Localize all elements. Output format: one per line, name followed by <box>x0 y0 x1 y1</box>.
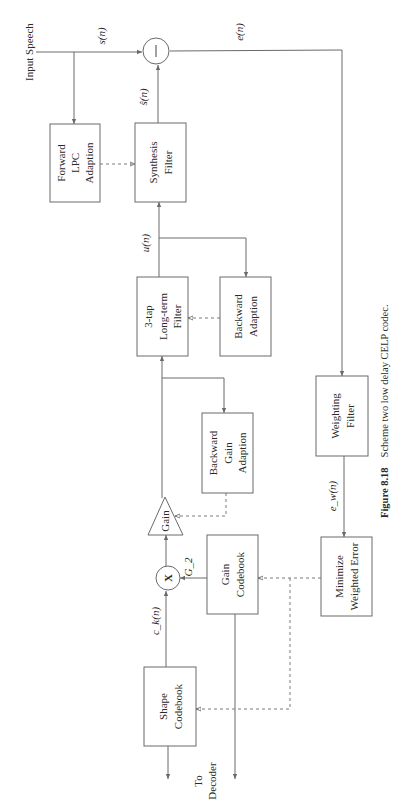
weighting-filter-block: Weighting Filter <box>316 376 368 456</box>
multiplier-node: X <box>156 566 180 590</box>
minimize-error-block: Minimize Weighted Error <box>321 537 372 616</box>
subtractor-node <box>143 38 169 64</box>
svg-text:Minimize: Minimize <box>333 555 345 598</box>
svg-text:Synthesis: Synthesis <box>147 141 159 183</box>
caption-text: Scheme two low delay CELP codec. <box>379 304 390 457</box>
gain-branch-line <box>162 378 224 413</box>
to-decoder-label: To Decoder <box>192 762 218 800</box>
svg-text:Adaption: Adaption <box>236 432 248 473</box>
u-n-label: u(n) <box>139 234 152 253</box>
caption-number: Figure 8.18 <box>379 467 390 518</box>
g2-label: G_2 <box>182 557 194 576</box>
s-hat-n-label: ŝ(n) <box>137 88 150 105</box>
figure-caption: Figure 8.18 Scheme two low delay CELP co… <box>376 304 393 518</box>
gain-adapt-dashed <box>175 493 226 516</box>
svg-text:Gain: Gain <box>222 442 234 464</box>
synthesis-filter-block: Synthesis Filter <box>135 123 186 202</box>
backward-gain-adaption-block: Backward Gain Adaption <box>202 413 253 493</box>
svg-text:Codebook: Codebook <box>234 551 246 597</box>
input-speech-label: Input Speech <box>23 23 35 81</box>
svg-text:Filter: Filter <box>162 150 174 174</box>
svg-text:LPC: LPC <box>69 153 81 173</box>
c-k-n-label: c_k(n) <box>149 607 162 635</box>
svg-text:Backward: Backward <box>232 294 244 339</box>
svg-text:Decoder: Decoder <box>206 762 218 800</box>
long-term-filter-block: 3-tap Long-term Filter <box>137 277 188 356</box>
forward-lpc-block: Forward LPC Adaption <box>50 124 100 202</box>
svg-text:Weighting: Weighting <box>329 393 341 439</box>
svg-text:Backward: Backward <box>207 430 219 475</box>
s-n-label: s(n) <box>95 27 108 44</box>
shape-codebook-block: Shape Codebook <box>144 667 196 746</box>
e-w-n-label: e_w(n) <box>326 480 339 511</box>
svg-text:Codebook: Codebook <box>172 683 184 729</box>
svg-text:3-tap: 3-tap <box>142 305 154 328</box>
svg-text:To: To <box>192 775 204 787</box>
gain-codebook-block: Gain Codebook <box>207 535 258 614</box>
svg-text:Shape: Shape <box>157 693 169 720</box>
multiply-icon: X <box>162 574 174 582</box>
u-branch-line <box>159 238 246 277</box>
svg-text:Gain: Gain <box>159 510 171 532</box>
svg-text:Adaption: Adaption <box>83 142 95 183</box>
svg-text:Weighted Error: Weighted Error <box>348 542 360 610</box>
e-n-label: e(n) <box>233 23 246 41</box>
svg-text:Filter: Filter <box>344 404 356 428</box>
gain-amplifier: Gain <box>148 497 183 535</box>
backward-adaption-block: Backward Adaption <box>220 277 271 356</box>
svg-text:Forward: Forward <box>55 144 67 182</box>
svg-text:Long-term: Long-term <box>157 293 169 340</box>
svg-text:Gain: Gain <box>219 563 231 585</box>
svg-text:Filter: Filter <box>171 304 183 328</box>
celp-codec-diagram: X Forward LPC Adaption Synthesis Filter … <box>0 0 407 808</box>
svg-text:Adaption: Adaption <box>247 296 259 337</box>
svg-text:Figure 8.18 Scheme two l: Figure 8.18 Scheme two low delay CELP co… <box>376 304 393 518</box>
